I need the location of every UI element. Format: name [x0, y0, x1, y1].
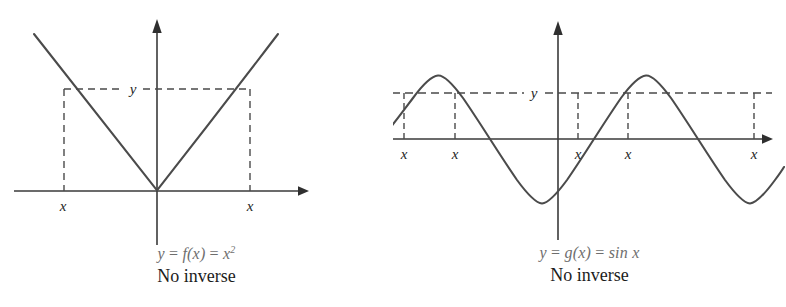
- x-axis: [393, 134, 773, 144]
- parabola-formula-eq1: =: [165, 245, 183, 262]
- sine-formula-arg: (x): [573, 244, 591, 261]
- sine-formula-eq1: =: [547, 244, 565, 261]
- parabola-formula: y = f(x) = x2: [0, 244, 393, 264]
- parabola-formula-exponent: 2: [230, 244, 235, 255]
- sine-x-label-2: x: [447, 146, 463, 163]
- sine-formula: y = g(x) = sin x: [393, 244, 786, 263]
- x-axis: [14, 186, 309, 196]
- sine-x-label-3: x: [570, 146, 586, 163]
- parabola-curve: [34, 34, 278, 190]
- parabola-formula-arg: (x): [187, 245, 205, 262]
- parabola-formula-lhs: y: [157, 245, 164, 262]
- panel-sine: y x x x x x y = g(x) = sin x No inverse: [393, 0, 786, 307]
- sine-x-label-5: x: [746, 146, 762, 163]
- parabola-x-label-left: x: [55, 198, 71, 215]
- parabola-y-label: y: [125, 81, 141, 98]
- sine-caption: y = g(x) = sin x No inverse: [393, 244, 786, 286]
- sine-formula-rhs: sin x: [609, 244, 640, 261]
- sine-plot: [393, 0, 786, 245]
- parabola-x-label-right: x: [242, 198, 258, 215]
- y-axis: [152, 19, 161, 245]
- sine-x-label-1: x: [396, 146, 412, 163]
- panel-parabola: y x x y = f(x) = x2 No inverse: [0, 0, 393, 307]
- parabola-no-inverse-note: No inverse: [0, 266, 393, 287]
- sine-y-label: y: [526, 85, 542, 102]
- sine-formula-fn: g: [564, 244, 572, 261]
- parabola-formula-eq2: =: [205, 245, 223, 262]
- figure-no-inverse-examples: y x x y = f(x) = x2 No inverse: [0, 0, 786, 307]
- sine-x-label-4: x: [620, 146, 636, 163]
- parabola-caption: y = f(x) = x2 No inverse: [0, 244, 393, 287]
- sine-no-inverse-note: No inverse: [393, 265, 786, 286]
- y-axis: [553, 21, 562, 240]
- sine-formula-lhs: y: [540, 244, 547, 261]
- sine-formula-eq2: =: [591, 244, 609, 261]
